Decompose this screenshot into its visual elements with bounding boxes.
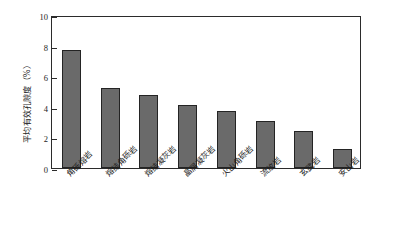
- y-tick-label: 4: [44, 105, 48, 114]
- y-tick-label: 6: [44, 74, 48, 83]
- y-tick-mark: [52, 109, 57, 110]
- y-tick-mark: [52, 170, 57, 171]
- plot-area: 0246810: [51, 16, 361, 169]
- bar: [62, 50, 81, 168]
- bar: [139, 95, 158, 168]
- y-tick-mark: [52, 139, 57, 140]
- y-tick-mark: [52, 48, 57, 49]
- y-tick-label: 0: [44, 166, 48, 175]
- y-tick-label: 8: [44, 43, 48, 52]
- y-tick-label: 10: [40, 13, 49, 22]
- y-tick-mark: [52, 78, 57, 79]
- bar: [101, 88, 120, 168]
- y-tick-label: 2: [44, 135, 48, 144]
- chart-figure: 平均有效孔隙度（%） 0246810 角砾熔岩熔结角砾岩熔结凝灰岩晶屑凝灰岩火山…: [0, 0, 394, 249]
- y-axis-title: 平均有效孔隙度（%）: [20, 32, 32, 172]
- y-tick-mark: [52, 17, 57, 18]
